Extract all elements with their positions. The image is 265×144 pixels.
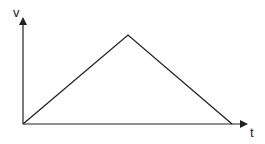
velocity-curve	[23, 35, 232, 124]
y-axis-label: v	[13, 5, 20, 20]
velocity-time-diagram: v t	[0, 0, 265, 144]
x-axis-label: t	[250, 125, 254, 140]
